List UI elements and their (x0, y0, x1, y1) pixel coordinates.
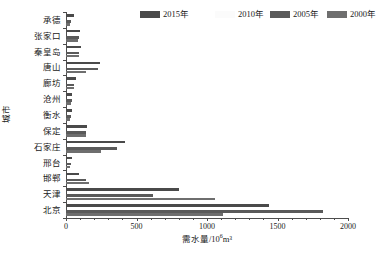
y-axis-category-label: 张家口 (34, 31, 61, 40)
x-axis-minor-tick (235, 218, 236, 220)
y-axis-tick (63, 155, 66, 156)
x-axis-tick-label: 1000 (199, 222, 215, 231)
bar[interactable] (66, 30, 80, 33)
x-axis-minor-tick (179, 218, 180, 220)
bar[interactable] (66, 23, 70, 26)
bar[interactable] (66, 39, 78, 42)
bar[interactable] (66, 173, 79, 176)
bar[interactable] (66, 46, 81, 49)
bar[interactable] (66, 141, 125, 144)
y-axis-tick (63, 91, 66, 92)
y-axis-category-label: 秦皇岛 (34, 47, 61, 56)
bar[interactable] (66, 55, 79, 58)
legend-label: 2000年 (350, 10, 376, 19)
y-axis-tick (63, 28, 66, 29)
x-axis-tick-label: 1500 (270, 222, 286, 231)
y-axis-category-label: 邯郸 (43, 174, 61, 183)
y-axis-tick (63, 75, 66, 76)
x-axis-minor-tick (320, 218, 321, 220)
x-axis-minor-tick (94, 218, 95, 220)
x-axis-major-tick (66, 218, 67, 221)
x-axis-minor-tick (122, 218, 123, 220)
y-axis-category-label: 唐山 (43, 63, 61, 72)
bar[interactable] (66, 188, 179, 191)
y-axis-category-label: 衡水 (43, 111, 61, 120)
x-axis-major-tick (137, 218, 138, 221)
y-axis-tick (63, 139, 66, 140)
bar[interactable] (66, 134, 86, 137)
y-axis-tick (63, 186, 66, 187)
x-axis-minor-tick (151, 218, 152, 220)
y-axis-category-label: 廊坊 (43, 79, 61, 88)
y-axis-tick (63, 202, 66, 203)
x-axis-major-tick (278, 218, 279, 221)
x-axis-minor-tick (292, 218, 293, 220)
x-axis-minor-tick (221, 218, 222, 220)
bar[interactable] (66, 204, 269, 207)
x-axis-tick-label: 500 (131, 222, 143, 231)
x-axis-minor-tick (334, 218, 335, 220)
bar[interactable] (66, 182, 89, 185)
bar[interactable] (66, 166, 70, 169)
x-axis-minor-tick (249, 218, 250, 220)
plot-area: 0500100015002000 (66, 12, 348, 218)
x-axis-tick-label: 2000 (340, 222, 356, 231)
bar[interactable] (66, 198, 215, 201)
x-axis-minor-tick (108, 218, 109, 220)
bar[interactable] (66, 14, 74, 17)
x-axis-minor-tick (165, 218, 166, 220)
bar[interactable] (66, 157, 72, 160)
y-axis-tick (63, 107, 66, 108)
y-axis-category-label: 邢台 (43, 158, 61, 167)
y-axis-category-label: 北京 (43, 206, 61, 215)
bar[interactable] (66, 118, 70, 121)
y-axis-category-label: 沧州 (43, 95, 61, 104)
bar[interactable] (66, 62, 100, 65)
x-axis-minor-tick (193, 218, 194, 220)
y-axis-category-label: 石家庄 (34, 142, 61, 151)
y-axis-tick (63, 44, 66, 45)
bar[interactable] (66, 102, 71, 105)
bar[interactable] (66, 77, 76, 80)
y-axis-category-label: 天津 (43, 190, 61, 199)
bar[interactable] (66, 125, 87, 128)
x-axis-tick-label: 0 (64, 222, 68, 231)
bar[interactable] (66, 213, 223, 216)
y-axis-tick (63, 12, 66, 13)
x-axis-minor-tick (263, 218, 264, 220)
y-axis-tick (63, 123, 66, 124)
x-axis-title-exponent: 6 (220, 233, 223, 239)
bar[interactable] (66, 87, 74, 90)
bar[interactable] (66, 93, 72, 96)
y-axis-tick (63, 60, 66, 61)
x-axis-minor-tick (306, 218, 307, 220)
bar[interactable] (66, 150, 101, 153)
x-axis-major-tick (207, 218, 208, 221)
y-axis-category-labels: 承德张家口秦皇岛唐山廊坊沧州衡水保定石家庄邢台邯郸天津北京 (0, 12, 63, 218)
bar[interactable] (66, 109, 72, 112)
x-axis-minor-tick (80, 218, 81, 220)
y-axis-category-label: 保定 (43, 126, 61, 135)
x-axis-major-tick (348, 218, 349, 221)
y-axis-tick (63, 170, 66, 171)
y-axis-category-label: 承德 (43, 15, 61, 24)
bar[interactable] (66, 71, 86, 74)
x-axis-title: 需水量/106m³ (66, 232, 348, 244)
